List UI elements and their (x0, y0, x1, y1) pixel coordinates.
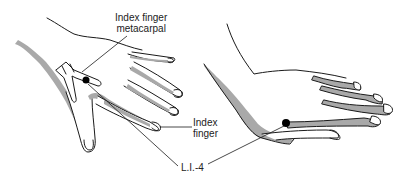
right-hand (204, 24, 393, 144)
right-hand-top-contour (227, 24, 346, 78)
label-index-line2: finger (193, 128, 218, 139)
label-metacarpal-line2: metacarpal (115, 23, 167, 34)
right-middle-nail (384, 104, 393, 114)
left-thumb (66, 92, 95, 152)
label-li4-text: L.I.-4 (181, 162, 204, 173)
label-metacarpal-line1: Index finger (115, 12, 167, 23)
leader-li4-right (208, 126, 284, 164)
li4-point-left (83, 77, 90, 84)
right-little-finger (312, 76, 361, 90)
left-index-finger-shade (104, 100, 150, 127)
leader-li4-left (88, 84, 178, 166)
left-hand (15, 18, 183, 152)
right-index-finger (286, 118, 380, 128)
leader-lines (82, 36, 284, 166)
label-index-finger: Index finger (193, 117, 218, 139)
label-index-finger-metacarpal: Index finger metacarpal (115, 12, 167, 34)
hand-acupoint-diagram (0, 0, 405, 188)
li4-point-right (282, 119, 290, 127)
right-little-nail (354, 82, 361, 90)
label-li4: L.I.-4 (181, 162, 204, 173)
label-index-line1: Index (193, 117, 218, 128)
leader-metacarpal (82, 36, 127, 72)
